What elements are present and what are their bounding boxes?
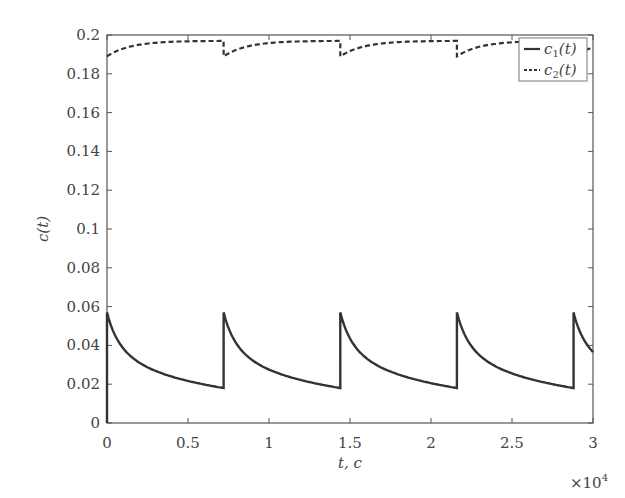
y-tick-label: 0.08: [67, 259, 100, 277]
x-tick-label: 2.5: [500, 434, 524, 452]
y-tick-label: 0.04: [67, 336, 100, 354]
x-tick-label: 1: [264, 434, 274, 452]
y-tick-label: 0.2: [76, 26, 100, 44]
line-chart: 00.511.522.53 00.020.040.060.080.10.120.…: [0, 0, 625, 498]
x-multiplier: ×104: [570, 472, 608, 492]
y-tick-label: 0: [90, 414, 100, 432]
x-tick-label: 1.5: [338, 434, 362, 452]
legend-item-c2: c2(t): [544, 61, 577, 80]
x-tick-label: 0.5: [176, 434, 200, 452]
y-axis-label: c(t): [34, 216, 52, 242]
plot-area: [107, 35, 593, 423]
x-tick-label: 3: [588, 434, 598, 452]
y-tick-label: 0.12: [67, 181, 100, 199]
y-tick-label: 0.02: [67, 375, 100, 393]
y-tick-label: 0.16: [67, 104, 100, 122]
y-tick-label: 0.06: [67, 298, 100, 316]
y-tick-label: 0.18: [67, 65, 100, 83]
legend: c1(t) c2(t): [519, 38, 587, 81]
x-multiplier-exponent: 4: [602, 472, 608, 483]
y-tick-label: 0.14: [67, 142, 100, 160]
x-multiplier-base: ×10: [570, 474, 602, 492]
x-tick-label: 2: [426, 434, 436, 452]
y-tick-label: 0.1: [76, 220, 100, 238]
x-axis-label: t, c: [338, 454, 363, 472]
legend-item-c1: c1(t): [544, 40, 577, 59]
x-tick-label: 0: [102, 434, 112, 452]
